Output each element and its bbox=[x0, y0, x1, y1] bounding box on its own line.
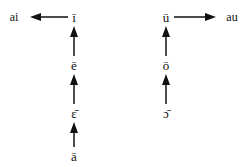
node-label-long-open-o: ɔ̄ bbox=[163, 107, 169, 120]
arrow-a-to-open-e-head bbox=[70, 122, 78, 133]
arrow-e-to-i-head bbox=[70, 26, 78, 37]
node-label-long-i: ī bbox=[72, 11, 76, 24]
node-label-long-a: ā bbox=[71, 150, 77, 163]
node-label-long-open-e: ɛ̄ bbox=[71, 107, 76, 120]
node-label-long-o: ō bbox=[163, 59, 170, 72]
node-label-au: au bbox=[226, 11, 237, 23]
arrow-layer bbox=[0, 0, 248, 167]
vowel-shift-diagram: ai ī ē ɛ̄ ā ū ō ɔ̄ au bbox=[0, 0, 248, 167]
arrow-open-e-to-e-head bbox=[70, 74, 78, 85]
node-label-long-u: ū bbox=[163, 11, 170, 24]
node-label-ai: ai bbox=[10, 11, 19, 23]
arrow-u-to-au-head bbox=[205, 13, 216, 21]
arrow-i-to-ai-head bbox=[30, 13, 41, 21]
arrow-o-to-u-head bbox=[162, 26, 170, 37]
node-label-long-e: ē bbox=[71, 59, 77, 72]
arrow-open-o-to-o-head bbox=[162, 74, 170, 85]
